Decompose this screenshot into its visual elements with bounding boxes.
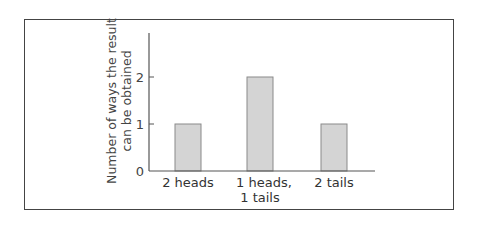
- bar-0: [175, 124, 201, 171]
- x-tick-label: 1 heads,: [236, 175, 292, 190]
- x-tick-label: 2 tails: [314, 175, 354, 190]
- bar-1: [247, 77, 273, 171]
- bar-chart: Number of ways the result can be obtaine…: [0, 0, 479, 229]
- bars: [175, 77, 347, 171]
- x-tick-label: 1 tails: [240, 190, 280, 205]
- bar-2: [321, 124, 347, 171]
- y-tick-label: 2: [136, 70, 144, 85]
- y-axis-label-line-1: Number of ways the result: [104, 18, 119, 184]
- x-tick-label: 2 heads: [162, 175, 214, 190]
- y-ticks: 012: [136, 70, 154, 179]
- y-tick-label: 1: [136, 117, 144, 132]
- y-axis-label: Number of ways the result can be obtaine…: [104, 18, 134, 184]
- x-tick-labels: 2 heads1 heads,1 tails2 tails: [162, 175, 354, 205]
- y-axis-label-line-2: can be obtained: [119, 50, 134, 151]
- y-tick-label: 0: [136, 164, 144, 179]
